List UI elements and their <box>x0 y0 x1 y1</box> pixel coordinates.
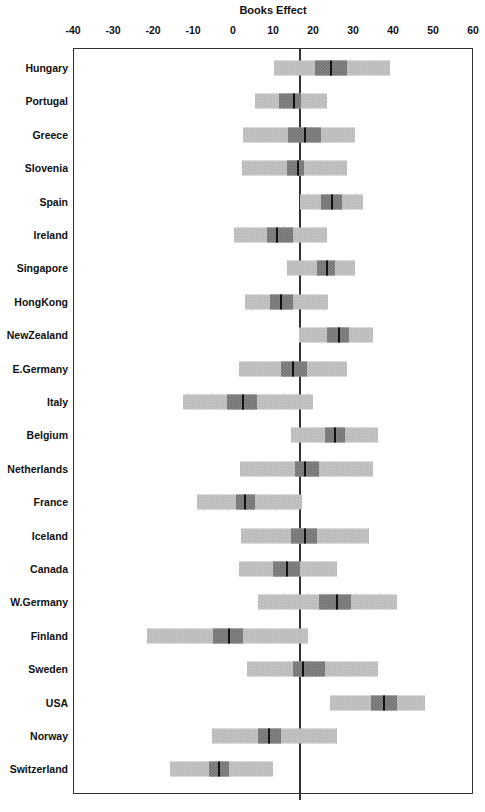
inner-interval <box>281 361 307 376</box>
point-estimate <box>276 228 278 243</box>
x-tick-10: 10 <box>267 24 279 36</box>
point-estimate <box>304 461 306 476</box>
point-estimate <box>338 328 340 343</box>
ci-bar-iceland <box>0 528 485 543</box>
ci-bar-singapore <box>0 261 485 276</box>
point-estimate <box>242 395 244 410</box>
point-estimate <box>228 628 230 643</box>
point-estimate <box>304 528 306 543</box>
x-tick-20: 20 <box>307 24 319 36</box>
inner-interval <box>293 662 325 677</box>
x-tick-60: 60 <box>467 24 479 36</box>
inner-interval <box>319 595 351 610</box>
x-tick-50: 50 <box>427 24 439 36</box>
inner-interval <box>287 161 304 176</box>
ci-bar-e-germany <box>0 361 485 376</box>
point-estimate <box>302 662 304 677</box>
point-estimate <box>280 294 282 309</box>
ci-bar-switzerland <box>0 762 485 777</box>
x-tick-neg40: -40 <box>65 24 80 36</box>
ci-bar-belgium <box>0 428 485 443</box>
point-estimate <box>383 695 385 710</box>
point-estimate <box>268 729 270 744</box>
point-estimate <box>336 595 338 610</box>
point-estimate <box>286 562 288 577</box>
forest-plot-chart: Books Effect -40-30-20-100102030405060 H… <box>0 0 485 812</box>
point-estimate <box>331 194 333 209</box>
inner-interval <box>295 461 319 476</box>
ci-bar-usa <box>0 695 485 710</box>
point-estimate <box>304 127 306 142</box>
x-tick-40: 40 <box>387 24 399 36</box>
ci-bar-hongkong <box>0 294 485 309</box>
inner-interval <box>279 94 301 109</box>
ci-bar-italy <box>0 395 485 410</box>
point-estimate <box>244 495 246 510</box>
ci-bar-france <box>0 495 485 510</box>
point-estimate <box>297 161 299 176</box>
point-estimate <box>330 61 332 76</box>
ci-bar-netherlands <box>0 461 485 476</box>
point-estimate <box>334 428 336 443</box>
inner-interval <box>267 228 293 243</box>
ci-bar-canada <box>0 562 485 577</box>
point-estimate <box>326 261 328 276</box>
x-tick-neg10: -10 <box>185 24 200 36</box>
x-tick-30: 30 <box>347 24 359 36</box>
ci-bar-norway <box>0 729 485 744</box>
ci-bar-hungary <box>0 61 485 76</box>
ci-bar-slovenia <box>0 161 485 176</box>
chart-title: Books Effect <box>73 4 473 16</box>
ci-bar-finland <box>0 628 485 643</box>
point-estimate <box>293 94 295 109</box>
point-estimate <box>292 361 294 376</box>
point-estimate <box>218 762 220 777</box>
x-tick-neg20: -20 <box>145 24 160 36</box>
ci-bar-greece <box>0 127 485 142</box>
ci-bar-w-germany <box>0 595 485 610</box>
ci-bar-sweden <box>0 662 485 677</box>
x-tick-0: 0 <box>230 24 236 36</box>
ci-bar-spain <box>0 194 485 209</box>
ci-bar-ireland <box>0 228 485 243</box>
ci-bar-newzealand <box>0 328 485 343</box>
ci-bar-portugal <box>0 94 485 109</box>
x-tick-neg30: -30 <box>105 24 120 36</box>
